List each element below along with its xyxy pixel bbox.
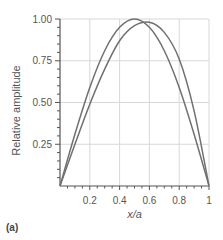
y-axis-title: Relative amplitude <box>10 65 22 156</box>
y-tick-label: 0.50 <box>33 97 53 108</box>
panel-label: (a) <box>6 222 18 233</box>
x-axis-title: x/a <box>126 208 142 220</box>
y-tick-label: 1.00 <box>33 14 53 25</box>
chart: 0.20.40.60.810.250.500.751.00x/aRelative… <box>0 0 223 240</box>
x-tick-label: 0.2 <box>83 195 97 206</box>
x-tick-label: 0.8 <box>172 195 186 206</box>
x-tick-label: 0.4 <box>113 195 127 206</box>
y-tick-label: 0.75 <box>33 55 53 66</box>
x-tick-label: 0.6 <box>142 195 156 206</box>
x-tick-label: 1 <box>206 195 212 206</box>
y-tick-label: 0.25 <box>33 139 53 150</box>
data-series-curve-2 <box>60 22 209 186</box>
